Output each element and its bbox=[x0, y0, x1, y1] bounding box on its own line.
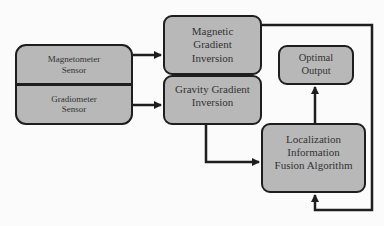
magnetometer-sensor-label: Magnetometer Sensor bbox=[48, 54, 100, 76]
optimal-output-node: Optimal Output bbox=[278, 45, 354, 85]
optimal-output-label: Optimal Output bbox=[299, 52, 333, 77]
gradiometer-sensor-label: Gradiometer Sensor bbox=[51, 94, 96, 116]
magnetometer-sensor-node: Magnetometer Sensor bbox=[17, 46, 131, 83]
diagram-canvas: Magnetometer Sensor Gradiometer Sensor M… bbox=[0, 0, 384, 226]
magnetic-gradient-inversion-label: Magnetic Gradient Inversion bbox=[192, 25, 234, 65]
magnetic-gradient-inversion-node: Magnetic Gradient Inversion bbox=[163, 15, 262, 75]
gradiometer-sensor-node: Gradiometer Sensor bbox=[17, 86, 131, 123]
arrow-ggi-to-fusion bbox=[206, 125, 259, 162]
fusion-algorithm-node: Localization Information Fusion Algorith… bbox=[261, 123, 366, 193]
fusion-algorithm-label: Localization Information Fusion Algorith… bbox=[275, 133, 353, 173]
sensor-block: Magnetometer Sensor Gradiometer Sensor bbox=[15, 44, 133, 125]
gravity-gradient-inversion-label: Gravity Gradient Inversion bbox=[175, 83, 250, 109]
gravity-gradient-inversion-node: Gravity Gradient Inversion bbox=[163, 75, 262, 125]
